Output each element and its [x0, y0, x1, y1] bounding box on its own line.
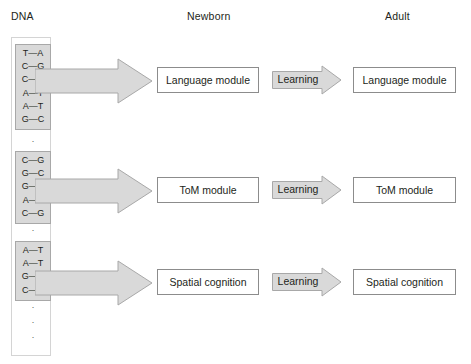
newborn-module-box: ToM module	[157, 177, 259, 203]
adult-module-box: Language module	[353, 67, 456, 93]
base-pair: A—T	[16, 244, 50, 257]
learning-arrow-label: Learning	[274, 73, 322, 85]
learning-arrow-label: Learning	[274, 183, 322, 195]
ellipsis-dot: ·	[15, 223, 51, 238]
ellipsis-dot: ·	[15, 315, 51, 330]
ellipsis-dot: ·	[15, 134, 51, 149]
modularity-development-diagram: DNA Newborn Adult T—A C—G C—G A—T A—T G—…	[0, 0, 471, 364]
ellipsis-dot: ·	[15, 330, 51, 345]
adult-module-box: Spatial cognition	[353, 269, 456, 295]
base-pair: C—G	[16, 154, 50, 167]
column-header-adult: Adult	[385, 10, 410, 22]
newborn-module-box: Language module	[157, 67, 259, 93]
gene-to-module-arrow-icon	[35, 168, 153, 214]
learning-arrow-label: Learning	[274, 275, 322, 287]
column-header-newborn: Newborn	[187, 10, 230, 22]
adult-module-box: ToM module	[353, 177, 456, 203]
base-pair: G—C	[16, 113, 50, 126]
gene-to-module-arrow-icon	[35, 260, 153, 306]
gene-to-module-arrow-icon	[35, 58, 153, 104]
column-header-dna: DNA	[11, 10, 34, 22]
dna-ellipsis: · · ·	[15, 300, 51, 345]
newborn-module-box: Spatial cognition	[157, 269, 259, 295]
